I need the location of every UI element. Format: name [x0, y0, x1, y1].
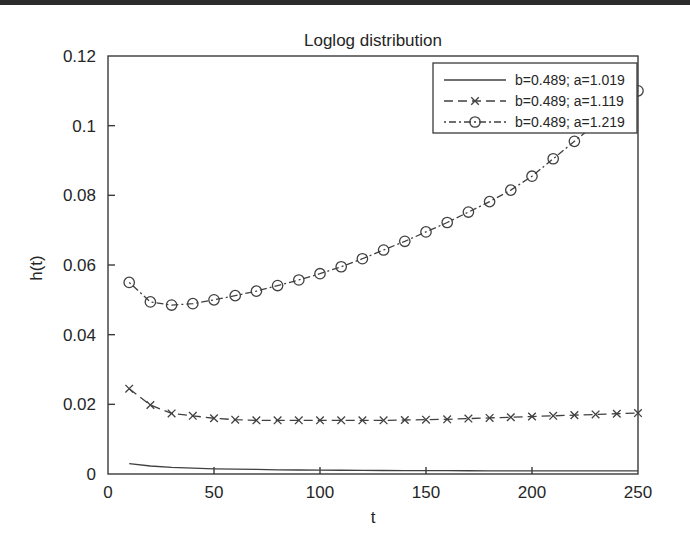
- chart-figure: Loglog distribution t h(t) 0501001502002…: [0, 0, 690, 541]
- y-tick-label: 0.08: [63, 186, 96, 205]
- y-tick-label: 0.02: [63, 395, 96, 414]
- y-tick-label: 0.06: [63, 256, 96, 275]
- series-1: [129, 464, 638, 471]
- x-tick-label: 100: [306, 483, 334, 502]
- y-axis-label: h(t): [27, 255, 46, 281]
- y-tick-label: 0: [87, 465, 96, 484]
- series-line: [129, 389, 638, 421]
- x-axis-ticks: 050100150200250: [103, 467, 652, 502]
- series-line: [129, 464, 638, 471]
- x-tick-label: 250: [624, 483, 652, 502]
- chart-title: Loglog distribution: [304, 31, 442, 50]
- x-tick-label: 200: [518, 483, 546, 502]
- y-tick-label: 0.1: [72, 117, 96, 136]
- data-point-circle: [124, 277, 134, 287]
- legend-item-label: b=0.489; a=1.119: [515, 93, 624, 109]
- legend-item-label: b=0.489; a=1.219: [515, 114, 625, 130]
- data-point-circle: [548, 154, 558, 164]
- x-tick-label: 50: [205, 483, 224, 502]
- data-point-circle: [336, 262, 346, 272]
- data-point-circle: [209, 295, 219, 305]
- loglog-distribution-chart: Loglog distribution t h(t) 0501001502002…: [0, 0, 690, 541]
- x-tick-label: 150: [412, 483, 440, 502]
- data-point-circle: [145, 297, 155, 307]
- data-point-circle: [463, 207, 473, 217]
- series-2: [125, 385, 641, 424]
- chart-legend: b=0.489; a=1.019b=0.489; a=1.119b=0.489;…: [433, 63, 637, 133]
- legend-item-label: b=0.489; a=1.019: [515, 72, 625, 88]
- x-axis-label: t: [371, 508, 376, 527]
- data-series-layer: [124, 86, 643, 471]
- x-tick-label: 0: [103, 483, 112, 502]
- y-tick-label: 0.04: [63, 326, 96, 345]
- y-tick-label: 0.12: [63, 47, 96, 66]
- y-axis-ticks: 00.020.040.060.080.10.12: [63, 47, 115, 484]
